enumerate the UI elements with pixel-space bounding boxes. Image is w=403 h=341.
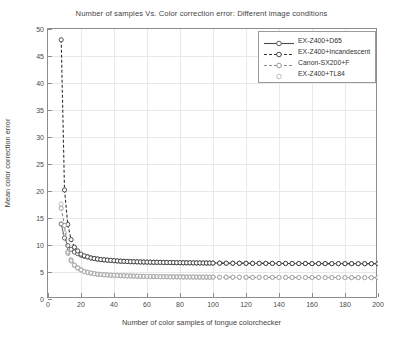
x-tick-mark bbox=[279, 293, 280, 297]
legend-label: EX-Z400+TL84 bbox=[298, 70, 345, 77]
y-tick-mark bbox=[48, 110, 52, 111]
y-tick-label-30: 30 bbox=[36, 134, 44, 141]
data-point bbox=[284, 261, 288, 265]
x-tick-label-0: 0 bbox=[46, 301, 50, 308]
y-axis-label: Mean color correction error bbox=[3, 119, 12, 208]
y-tick-mark bbox=[48, 245, 52, 246]
data-point bbox=[244, 261, 248, 265]
x-tick-label-100: 100 bbox=[207, 301, 219, 308]
y-tick-mark bbox=[48, 191, 52, 192]
data-point bbox=[350, 262, 354, 266]
x-tick-mark bbox=[246, 293, 247, 297]
x-axis-label: Number of color samples of tongue colorc… bbox=[0, 318, 403, 327]
data-point bbox=[277, 261, 281, 265]
legend-marker-icon bbox=[262, 46, 296, 57]
data-point bbox=[336, 262, 340, 266]
y-tick-label-50: 50 bbox=[36, 26, 44, 33]
data-point bbox=[270, 261, 274, 265]
data-point bbox=[303, 261, 307, 265]
legend-label: Canon-SX200+F bbox=[298, 59, 350, 66]
y-tick-mark bbox=[48, 272, 52, 273]
y-tick-label-25: 25 bbox=[36, 161, 44, 168]
legend: EX-Z400+D65EX-Z400+IncandescentCanon-SX2… bbox=[258, 31, 376, 83]
x-tick-mark bbox=[312, 293, 313, 297]
series-2 bbox=[59, 206, 378, 280]
data-point bbox=[376, 262, 378, 266]
data-point bbox=[343, 262, 347, 266]
data-point bbox=[69, 238, 73, 242]
y-tick-mark bbox=[48, 164, 52, 165]
data-point bbox=[59, 38, 63, 42]
legend-item-1[interactable]: EX-Z400+Incandescent bbox=[262, 46, 370, 57]
data-point bbox=[224, 261, 228, 265]
data-point bbox=[218, 261, 222, 265]
y-tick-mark bbox=[48, 83, 52, 84]
y-tick-label-40: 40 bbox=[36, 80, 44, 87]
y-tick-label-15: 15 bbox=[36, 215, 44, 222]
legend-item-3[interactable]: EX-Z400+TL84 bbox=[262, 68, 370, 79]
y-tick-label-10: 10 bbox=[36, 242, 44, 249]
x-tick-label-140: 140 bbox=[273, 301, 285, 308]
legend-marker-icon bbox=[262, 35, 296, 46]
data-point bbox=[369, 262, 373, 266]
x-tick-mark bbox=[213, 293, 214, 297]
data-point bbox=[330, 262, 334, 266]
chart-title: Number of samples Vs. Color correction e… bbox=[0, 9, 403, 18]
x-tick-label-120: 120 bbox=[240, 301, 252, 308]
series-3 bbox=[59, 202, 378, 280]
x-tick-mark bbox=[378, 293, 379, 297]
y-tick-mark bbox=[48, 29, 52, 30]
legend-item-0[interactable]: EX-Z400+D65 bbox=[262, 35, 370, 46]
data-point bbox=[62, 223, 66, 227]
legend-marker-icon bbox=[262, 57, 296, 68]
data-point bbox=[62, 188, 66, 192]
data-point bbox=[251, 261, 255, 265]
y-tick-mark bbox=[48, 299, 52, 300]
y-tick-label-5: 5 bbox=[40, 269, 44, 276]
x-tick-label-160: 160 bbox=[306, 301, 318, 308]
x-tick-mark bbox=[48, 293, 49, 297]
data-point bbox=[363, 262, 367, 266]
data-point bbox=[290, 261, 294, 265]
y-tick-label-20: 20 bbox=[36, 188, 44, 195]
data-point bbox=[356, 262, 360, 266]
y-tick-mark bbox=[48, 137, 52, 138]
x-tick-label-20: 20 bbox=[77, 301, 85, 308]
y-tick-label-35: 35 bbox=[36, 107, 44, 114]
legend-label: EX-Z400+D65 bbox=[298, 37, 342, 44]
data-point bbox=[310, 261, 314, 265]
data-point bbox=[237, 261, 241, 265]
data-point bbox=[76, 249, 80, 253]
data-point bbox=[297, 261, 301, 265]
x-tick-label-60: 60 bbox=[143, 301, 151, 308]
y-tick-label-45: 45 bbox=[36, 53, 44, 60]
x-tick-mark bbox=[180, 293, 181, 297]
legend-label: EX-Z400+Incandescent bbox=[298, 48, 370, 55]
data-point bbox=[257, 261, 261, 265]
x-tick-label-180: 180 bbox=[339, 301, 351, 308]
figure-container: Number of samples Vs. Color correction e… bbox=[0, 0, 403, 341]
data-point bbox=[59, 202, 63, 206]
y-tick-mark bbox=[48, 56, 52, 57]
series-line bbox=[61, 208, 378, 277]
data-point bbox=[72, 245, 76, 249]
data-point bbox=[59, 206, 63, 210]
series-line bbox=[61, 224, 378, 264]
data-point bbox=[264, 261, 268, 265]
x-tick-mark bbox=[114, 293, 115, 297]
data-point bbox=[323, 261, 327, 265]
x-tick-mark bbox=[147, 293, 148, 297]
x-tick-label-200: 200 bbox=[372, 301, 384, 308]
legend-marker-icon bbox=[262, 68, 296, 79]
data-point bbox=[211, 261, 215, 265]
x-tick-label-40: 40 bbox=[110, 301, 118, 308]
legend-item-2[interactable]: Canon-SX200+F bbox=[262, 57, 370, 68]
x-tick-mark bbox=[345, 293, 346, 297]
data-point bbox=[231, 261, 235, 265]
x-tick-mark bbox=[81, 293, 82, 297]
x-tick-label-80: 80 bbox=[176, 301, 184, 308]
y-tick-mark bbox=[48, 218, 52, 219]
y-tick-label-0: 0 bbox=[40, 296, 44, 303]
data-point bbox=[317, 261, 321, 265]
